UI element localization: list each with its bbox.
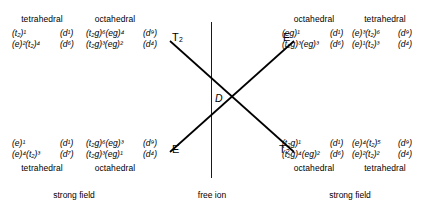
config-bottom-right-oct-2: (t₂g)⁴(eg)² — [282, 149, 320, 159]
caption-strong-field-right: strong field — [290, 190, 410, 200]
branch-label-bottom-left: E — [172, 143, 179, 155]
header-top-right-tetrahedral: tetrahedral — [350, 14, 420, 24]
dterm-bottom-right-tet-2: (d⁴) — [398, 149, 412, 159]
caption-free-ion: free ion — [162, 190, 262, 200]
dterm-top-left-tet-2: (d⁶) — [60, 39, 74, 49]
quadrant-top-left: tetrahedral octahedral (t₂)¹ (d¹) (t₂g)⁶… — [8, 14, 168, 49]
dterm-bottom-right-oct-1: (d¹) — [330, 138, 343, 148]
dterm-top-right-oct-1: (d¹) — [330, 28, 343, 38]
dterm-top-right-tet-1: (d⁹) — [398, 28, 412, 38]
config-bottom-left-tet-2: (e)⁴(t₂)³ — [12, 149, 40, 159]
ligand-field-correlation-diagram: D T₂ E E T₂ tetrahedral octahedral (t₂)¹… — [0, 0, 422, 212]
header-bottom-left-octahedral: octahedral — [80, 163, 150, 173]
header-bottom-right-tetrahedral: tetrahedral — [350, 163, 420, 173]
branch-label-top-left: T₂ — [172, 31, 183, 43]
config-top-right-tet-1: (e)³(t₂)⁶ — [352, 28, 380, 38]
config-bottom-right-tet-1: (e)⁴(t₂)⁵ — [352, 138, 381, 148]
config-top-left-tet-2: (e)²(t₂)⁴ — [12, 39, 40, 49]
dterm-top-right-oct-2: (d⁶) — [330, 39, 344, 49]
config-top-left-tet-1: (t₂)¹ — [12, 28, 26, 38]
dterm-top-left-oct-2: (d⁴) — [143, 39, 157, 49]
dterm-bottom-left-oct-1: (d⁹) — [143, 138, 157, 148]
header-top-left-tetrahedral: tetrahedral — [10, 14, 74, 24]
header-top-right-octahedral: octahedral — [280, 14, 348, 24]
dterm-top-left-tet-1: (d¹) — [60, 28, 73, 38]
dterm-top-left-oct-1: (d⁹) — [143, 28, 157, 38]
config-top-right-oct-1: (eg)¹ — [282, 28, 300, 38]
dterm-top-right-tet-2: (d⁴) — [398, 39, 412, 49]
quadrant-bottom-left: (e)¹ (d¹) (t₂g)⁶(eg)³ (d⁹) (e)⁴(t₂)³ (d⁷… — [8, 138, 168, 174]
dterm-bottom-left-tet-1: (d¹) — [60, 138, 73, 148]
config-bottom-right-tet-2: (e)²(t₂)² — [352, 149, 379, 159]
config-bottom-left-oct-1: (t₂g)⁶(eg)³ — [86, 138, 123, 148]
header-top-left-octahedral: octahedral — [80, 14, 150, 24]
dterm-bottom-right-oct-2: (d⁶) — [330, 149, 344, 159]
caption-strong-field-left: strong field — [14, 190, 134, 200]
config-top-left-oct-1: (t₂g)⁶(eg)⁴ — [86, 28, 124, 38]
dterm-bottom-left-oct-2: (d⁴) — [143, 149, 157, 159]
config-bottom-right-oct-1: (t₂g)¹ — [282, 138, 301, 148]
config-top-right-oct-2: (t₂g)³(eg)³ — [282, 39, 319, 49]
config-bottom-left-tet-1: (e)¹ — [12, 138, 25, 148]
center-term-label: D — [215, 92, 223, 104]
config-bottom-left-oct-2: (t₂g)³(eg)¹ — [86, 149, 123, 159]
header-bottom-right-octahedral: octahedral — [280, 163, 348, 173]
config-top-left-oct-2: (t₂g)³(eg)² — [86, 39, 123, 49]
dterm-bottom-left-tet-2: (d⁷) — [60, 149, 74, 159]
config-top-right-tet-2: (e)¹(t₂)³ — [352, 39, 379, 49]
quadrant-bottom-right: (t₂g)¹ (d¹) (e)⁴(t₂)⁵ (d⁹) (t₂g)⁴(eg)² (… — [280, 138, 422, 174]
dterm-bottom-right-tet-1: (d⁹) — [398, 138, 412, 148]
header-bottom-left-tetrahedral: tetrahedral — [10, 163, 74, 173]
quadrant-top-right: octahedral tetrahedral (eg)¹ (d¹) (e)³(t… — [280, 14, 422, 49]
